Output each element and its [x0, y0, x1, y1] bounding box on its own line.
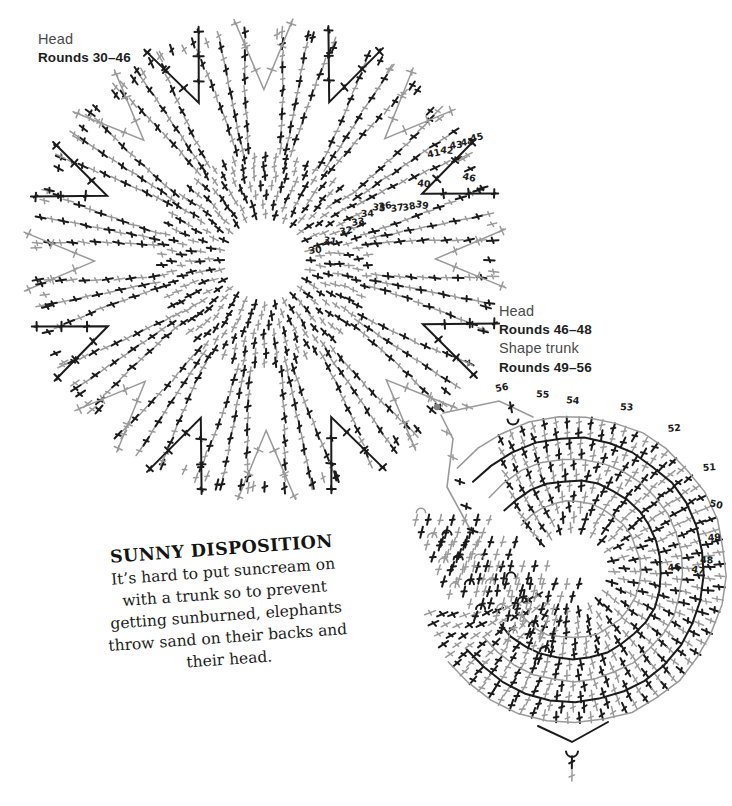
round-number: 30 [308, 244, 323, 256]
round-number: 31 [323, 234, 338, 247]
page-canvas: 3031323334353637383940414243444546 56555… [0, 0, 732, 806]
round-number: 46 [462, 170, 478, 184]
label-head-trunk: Head Rounds 46–48 Shape trunk Rounds 49–… [499, 302, 592, 376]
round-number: 48 [700, 554, 714, 565]
label-trunk-head-title: Head [499, 302, 592, 321]
round-number: 45 [469, 130, 484, 144]
round-number: 50 [709, 497, 725, 511]
round-number: 51 [702, 461, 716, 473]
callout-sunny-disposition: SUNNY DISPOSITION It’s hard to put suncr… [92, 530, 359, 680]
label-head-title: Head [38, 30, 131, 49]
round-number: 49 [707, 531, 721, 543]
round-number: 46 [667, 561, 682, 573]
label-trunk-head-rounds: Rounds 46–48 [499, 321, 592, 339]
round-number: 47 [691, 563, 706, 576]
round-number: 53 [620, 401, 634, 413]
round-number: 52 [667, 422, 681, 434]
round-number: 56 [494, 380, 510, 394]
chart-head-trunk: 5655545352515049484746 [390, 370, 732, 806]
round-start-dot [434, 404, 440, 410]
round-number: 39 [415, 198, 430, 211]
label-shape-trunk-title: Shape trunk [499, 339, 592, 358]
label-head-rounds: Rounds 30–46 [38, 49, 131, 67]
round-number: 55 [536, 388, 550, 400]
round-number: 54 [566, 394, 581, 406]
label-head-rounds-30-46: Head Rounds 30–46 [38, 30, 131, 67]
label-shape-trunk-rounds: Rounds 49–56 [499, 359, 592, 377]
callout-body: It’s hard to put suncream on with a trun… [94, 551, 359, 679]
round-number: 40 [417, 177, 432, 190]
